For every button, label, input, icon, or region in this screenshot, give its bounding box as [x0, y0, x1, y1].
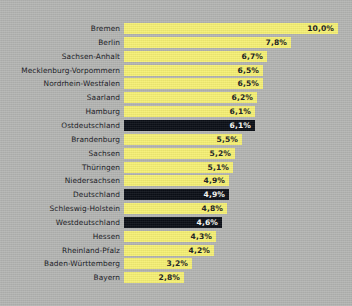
horizontal-bar-chart: Bremen10,0%Berlin7,8%Sachsen-Anhalt6,7%M… [0, 0, 352, 306]
bar: 2,8% [124, 272, 184, 283]
bar-value-label: 4,9% [204, 175, 225, 186]
category-label: Nordrhein-Westfalen [44, 77, 120, 90]
bar-row: Mecklenburg-Vorpommern6,5% [0, 64, 352, 77]
category-label: Brandenburg [71, 133, 120, 146]
bar-value-label: 6,1% [230, 120, 251, 131]
bar-row: Rheinland-Pfalz4,2% [0, 244, 352, 257]
bar-row: Schleswig-Holstein4,8% [0, 202, 352, 215]
category-label: Saarland [87, 91, 120, 104]
bar-value-label: 5,5% [217, 134, 238, 145]
bar-highlighted: 4,9% [124, 189, 229, 200]
bar-value-label: 3,2% [167, 258, 188, 269]
category-label: Baden-Württemberg [44, 257, 120, 270]
bar-value-label: 6,2% [232, 92, 253, 103]
category-label: Hamburg [85, 105, 120, 118]
bar-value-label: 10,0% [307, 23, 334, 34]
bar: 6,2% [124, 92, 257, 103]
bar-row: Brandenburg5,5% [0, 133, 352, 146]
bar: 7,8% [124, 37, 291, 48]
bar: 4,2% [124, 245, 214, 256]
category-label: Sachsen-Anhalt [62, 50, 120, 63]
bar-value-label: 6,5% [238, 78, 259, 89]
bar-value-label: 4,8% [202, 203, 223, 214]
bar-value-label: 4,2% [189, 245, 210, 256]
category-label: Deutschland [73, 188, 120, 201]
bar: 10,0% [124, 23, 338, 34]
category-label: Ostdeutschland [61, 119, 120, 132]
bar-value-label: 6,7% [242, 51, 263, 62]
bar-highlighted: 4,6% [124, 217, 222, 228]
bar-row: Nordrhein-Westfalen6,5% [0, 77, 352, 90]
bar: 5,5% [124, 134, 242, 145]
bar: 4,9% [124, 175, 229, 186]
bar-row: Bremen10,0% [0, 22, 352, 35]
bar-value-label: 2,8% [159, 272, 180, 283]
bar-value-label: 4,6% [197, 217, 218, 228]
bar: 6,1% [124, 106, 255, 117]
category-label: Thüringen [82, 161, 120, 174]
bar-row: Deutschland4,9% [0, 188, 352, 201]
bar-row: Bayern2,8% [0, 271, 352, 284]
category-label: Westdeutschland [56, 216, 120, 229]
bar: 6,7% [124, 51, 267, 62]
bar: 6,5% [124, 78, 263, 89]
bar-highlighted: 6,1% [124, 120, 255, 131]
bar-row: Hessen4,3% [0, 230, 352, 243]
bar-row: Ostdeutschland6,1% [0, 119, 352, 132]
bar-row: Saarland6,2% [0, 91, 352, 104]
bar: 5,1% [124, 162, 233, 173]
bar-value-label: 6,5% [238, 65, 259, 76]
bar-row: Sachsen5,2% [0, 147, 352, 160]
bar-value-label: 4,3% [191, 231, 212, 242]
category-label: Berlin [98, 36, 120, 49]
bar-row: Hamburg6,1% [0, 105, 352, 118]
category-label: Bayern [94, 271, 120, 284]
bar: 5,2% [124, 148, 235, 159]
bar-value-label: 5,2% [210, 148, 231, 159]
bar-row: Westdeutschland4,6% [0, 216, 352, 229]
bar: 3,2% [124, 258, 192, 269]
bar-row: Thüringen5,1% [0, 161, 352, 174]
category-label: Rheinland-Pfalz [62, 244, 120, 257]
bar-row: Niedersachsen4,9% [0, 174, 352, 187]
bar-row: Sachsen-Anhalt6,7% [0, 50, 352, 63]
bar-row: Baden-Württemberg3,2% [0, 257, 352, 270]
bar: 4,3% [124, 231, 216, 242]
bar-value-label: 5,1% [208, 162, 229, 173]
category-label: Bremen [91, 22, 120, 35]
category-label: Sachsen [89, 147, 120, 160]
category-label: Niedersachsen [65, 174, 120, 187]
category-label: Mecklenburg-Vorpommern [21, 64, 120, 77]
bar: 6,5% [124, 65, 263, 76]
category-label: Hessen [93, 230, 120, 243]
bar: 4,8% [124, 203, 227, 214]
category-label: Schleswig-Holstein [50, 202, 120, 215]
bar-value-label: 7,8% [266, 37, 287, 48]
bar-value-label: 4,9% [204, 189, 225, 200]
bar-row: Berlin7,8% [0, 36, 352, 49]
bar-value-label: 6,1% [230, 106, 251, 117]
